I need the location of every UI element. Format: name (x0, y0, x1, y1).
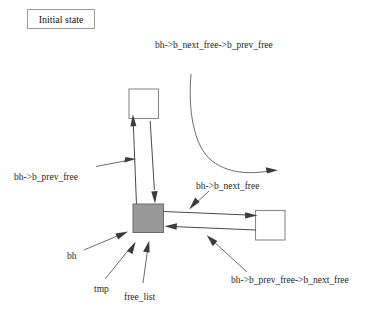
link-top-to-gray-arrowhead (151, 191, 157, 204)
tmp-label-leader (105, 242, 136, 279)
prev-next-label-leader (207, 235, 247, 272)
prev-next-leader-arrowhead (207, 235, 218, 246)
link-right-to-gray (165, 223, 257, 230)
diagram-canvas: Initial state (0, 0, 378, 323)
top-buffer-node (129, 89, 159, 119)
linked-list-diagram: Initial state (0, 0, 378, 323)
next-prev-arrowhead (266, 167, 278, 173)
free-list-leader-arrowhead (143, 241, 150, 253)
prev-next-leader-line (212, 240, 247, 272)
label-next-prev-free: bh->b_next_free->b_prev_free (155, 40, 273, 50)
caption-label: Initial state (39, 14, 84, 25)
tmp-leader-line (105, 247, 131, 279)
next-prev-pointer-arrow (190, 74, 278, 174)
current-buffer-node (133, 204, 164, 233)
bh-leader-line (84, 234, 122, 250)
label-prev-free: bh->b_prev_free (14, 172, 78, 182)
free-list-leader-line (143, 247, 148, 283)
link-gray-to-right (164, 212, 258, 219)
link-top-to-gray-line (150, 121, 154, 190)
link-right-to-gray-arrowhead (165, 223, 178, 230)
link-right-to-gray-line (172, 227, 256, 231)
next-leader-arrowhead (189, 198, 199, 210)
bh-leader-arrowhead (115, 232, 128, 240)
label-prev-next-free: bh->b_prev_free->b_next_free (231, 275, 349, 285)
link-gray-to-top-line (133, 121, 136, 205)
label-bh: bh (67, 251, 77, 261)
label-next-free: bh->b_next_free (196, 181, 259, 191)
tmp-leader-arrowhead (127, 242, 136, 254)
bh-label-leader (84, 232, 128, 250)
free-list-label-leader (143, 241, 150, 283)
right-buffer-node (256, 211, 286, 241)
prev-label-leader (96, 157, 136, 167)
next-label-leader (189, 191, 209, 209)
link-top-to-gray (150, 121, 157, 204)
next-prev-curve (190, 74, 270, 173)
label-tmp: tmp (94, 284, 109, 294)
initial-state-caption: Initial state (28, 10, 95, 29)
link-gray-to-right-line (164, 212, 253, 216)
label-free-list: free_list (124, 292, 155, 302)
